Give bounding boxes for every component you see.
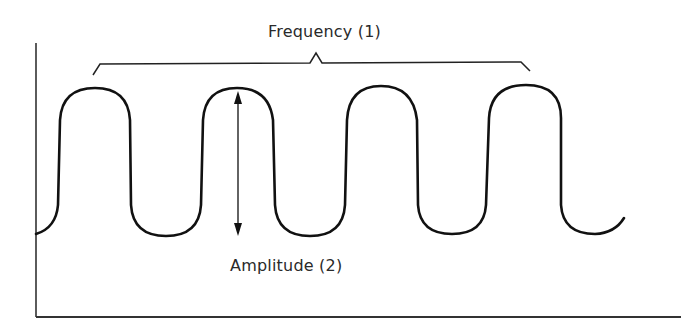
wave-curve <box>36 85 624 236</box>
frequency-bracket <box>93 53 530 75</box>
arrow-down-icon <box>234 223 242 236</box>
arrow-up-icon <box>234 91 242 104</box>
amplitude-label: Amplitude (2) <box>230 256 342 275</box>
frequency-label: Frequency (1) <box>268 22 381 41</box>
wave-diagram <box>0 0 693 320</box>
